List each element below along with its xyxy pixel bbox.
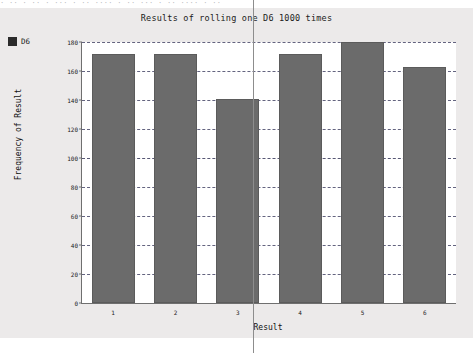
- bar-series: 123456: [82, 42, 456, 303]
- bar-slot-1: 1: [82, 42, 144, 303]
- bar-5[interactable]: [341, 42, 384, 303]
- x-tick-label-5: 5: [361, 309, 365, 316]
- y-tick-label-100: 100: [67, 155, 78, 162]
- x-tick-label-4: 4: [298, 309, 302, 316]
- bar-slot-6: 6: [394, 42, 456, 303]
- x-tick-label-3: 3: [236, 309, 240, 316]
- bar-3[interactable]: [216, 99, 259, 303]
- chart-legend: D6: [8, 37, 30, 46]
- x-tick-label-1: 1: [111, 309, 115, 316]
- chart-panel: Results of rolling one D6 1000 times D6 …: [0, 8, 473, 338]
- y-tick-label-60: 60: [71, 213, 78, 220]
- x-tick-label-2: 2: [174, 309, 178, 316]
- bar-4[interactable]: [279, 54, 322, 303]
- y-tick-label-140: 140: [67, 97, 78, 104]
- y-tick-label-20: 20: [71, 271, 78, 278]
- bar-1[interactable]: [92, 54, 135, 303]
- chart-title: Results of rolling one D6 1000 times: [0, 13, 473, 23]
- bar-slot-3: 3: [207, 42, 269, 303]
- bar-2[interactable]: [154, 54, 197, 303]
- y-axis-title: Frequency of Result: [14, 65, 23, 205]
- legend-swatch-d6: [8, 37, 17, 46]
- y-tick-label-0: 0: [74, 300, 78, 307]
- legend-label-d6: D6: [21, 37, 30, 46]
- x-axis-title: Result: [81, 323, 455, 332]
- bar-slot-2: 2: [144, 42, 206, 303]
- y-tick-label-180: 180: [67, 39, 78, 46]
- bar-slot-5: 5: [331, 42, 393, 303]
- x-tick-label-6: 6: [423, 309, 427, 316]
- y-tick-label-80: 80: [71, 184, 78, 191]
- plot-area: 020406080100120140160180 123456: [81, 42, 456, 304]
- y-tick-label-120: 120: [67, 126, 78, 133]
- bar-6[interactable]: [403, 67, 446, 303]
- bar-slot-4: 4: [269, 42, 331, 303]
- y-tick-label-160: 160: [67, 68, 78, 75]
- window-chrome-sliver: · ·· · ·· · ··· · ·· ···· · ·· ··· · ·· …: [0, 0, 473, 7]
- y-tick-label-40: 40: [71, 242, 78, 249]
